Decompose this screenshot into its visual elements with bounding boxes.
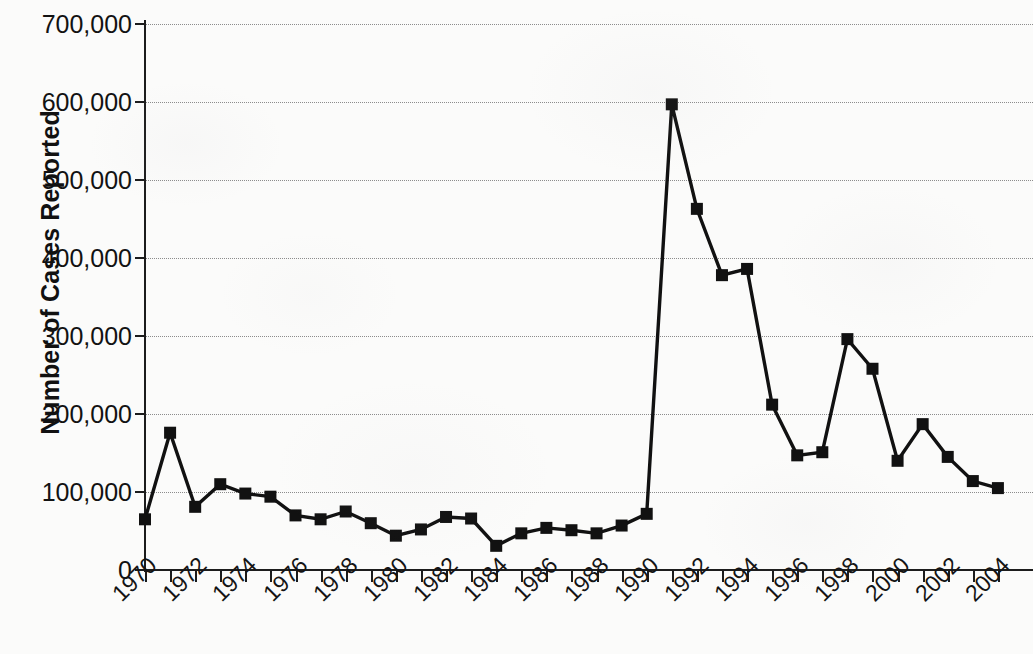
gridline xyxy=(145,492,1033,493)
gridline xyxy=(145,336,1033,337)
y-axis-tick-label: 200,000 xyxy=(14,400,132,429)
gridline xyxy=(145,414,1033,415)
plot-area xyxy=(145,24,1033,570)
y-axis-tick-labels: 700,000600,000500,000400,000300,000200,0… xyxy=(8,0,132,654)
y-axis-tick-label: 400,000 xyxy=(14,244,132,273)
y-axis-tick-mark xyxy=(135,335,146,337)
y-axis-tick-label: 300,000 xyxy=(14,322,132,351)
gridline xyxy=(145,180,1033,181)
y-axis-tick-mark xyxy=(135,491,146,493)
y-axis-tick-mark xyxy=(135,413,146,415)
y-axis-tick-mark xyxy=(135,23,146,25)
y-axis-tick-label: 500,000 xyxy=(14,166,132,195)
y-axis-tick-label: 600,000 xyxy=(14,88,132,117)
y-axis-tick-mark xyxy=(135,101,146,103)
gridline xyxy=(145,258,1033,259)
gridline xyxy=(145,24,1033,25)
y-axis-tick-label: 100,000 xyxy=(14,478,132,507)
y-axis-tick-label: 700,000 xyxy=(14,10,132,39)
chart-page: Number of Cases Reported 700,000600,0005… xyxy=(0,0,1033,654)
y-axis-tick-mark xyxy=(135,257,146,259)
y-axis-tick-mark xyxy=(135,179,146,181)
gridline xyxy=(145,102,1033,103)
